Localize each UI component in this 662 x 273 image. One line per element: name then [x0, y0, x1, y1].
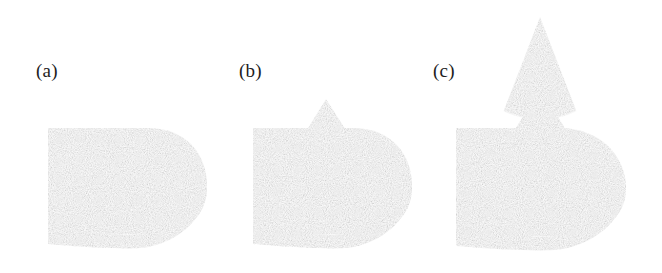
- panel-b-cone-upper: [297, 99, 356, 152]
- panel-c: (c): [400, 0, 662, 273]
- panel-a-surface-plot: [0, 0, 230, 273]
- panel-a-label: (a): [36, 60, 58, 82]
- panel-c-surface-plot: [400, 0, 662, 273]
- panel-c-cone-contact-shadow: [479, 183, 603, 205]
- panel-a-center-blob: [95, 164, 167, 212]
- panel-c-cone-upper: [504, 17, 576, 118]
- panel-b-label: (b): [239, 60, 262, 82]
- panel-c-label: (c): [433, 60, 455, 82]
- panel-b-cone-contact-shadow: [287, 179, 379, 199]
- panel-a: (a): [0, 0, 230, 273]
- figure-root: (a) (b): [0, 0, 662, 273]
